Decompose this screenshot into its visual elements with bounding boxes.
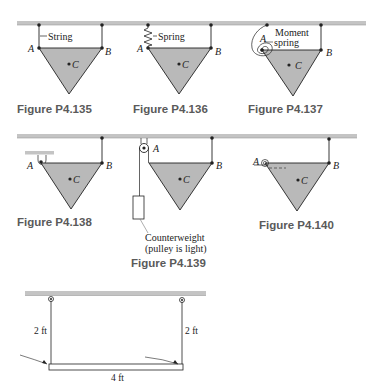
figure-sheet: String A B C Figure P4.135 Spring A B C … bbox=[0, 0, 366, 383]
figure-p4-137: Moment spring A B C Figure P4.137 bbox=[248, 23, 332, 115]
point-b-label: B bbox=[216, 160, 222, 171]
point-b-label: B bbox=[215, 46, 221, 57]
point-a-label: A bbox=[136, 43, 144, 54]
point-a-label: A bbox=[26, 160, 34, 171]
ceiling-bar-top bbox=[17, 21, 366, 25]
triangular-plate bbox=[149, 163, 212, 210]
pulley-note-label: (pulley is light) bbox=[145, 243, 207, 255]
triangular-plate bbox=[262, 50, 321, 96]
point-a-label: A bbox=[259, 33, 267, 44]
right-length-label: 2 ft bbox=[185, 326, 198, 336]
figure-p4-135: String A B C Figure P4.135 bbox=[17, 23, 111, 115]
triangular-plate bbox=[148, 48, 211, 94]
ceiling-bar-middle bbox=[17, 134, 357, 138]
center-of-mass-dot bbox=[178, 177, 181, 180]
width-label: 4 ft bbox=[111, 373, 124, 383]
point-c-label: C bbox=[73, 174, 80, 185]
center-of-mass-dot bbox=[287, 63, 290, 66]
figure-caption: Figure P4.140 bbox=[259, 219, 334, 231]
center-of-mass-dot bbox=[67, 62, 70, 65]
string-label: String bbox=[48, 31, 72, 42]
figure-caption: Figure P4.138 bbox=[17, 216, 92, 228]
figure-caption: Figure P4.137 bbox=[248, 103, 323, 115]
point-c-label: C bbox=[183, 174, 190, 185]
figure-p4-140: A B C Figure P4.140 bbox=[252, 137, 339, 231]
spring-label: Spring bbox=[158, 31, 185, 42]
triangular-plate bbox=[265, 163, 329, 211]
pin-a bbox=[39, 160, 43, 164]
counterweight-label: Counterweight bbox=[145, 232, 205, 243]
center-of-mass-dot bbox=[177, 62, 180, 65]
ceiling-bar-bottom bbox=[25, 291, 206, 296]
center-of-mass-dot bbox=[68, 177, 71, 180]
figure-caption: Figure P4.139 bbox=[131, 257, 206, 269]
point-a-label: A bbox=[252, 156, 260, 167]
point-a-label: A bbox=[27, 43, 35, 54]
left-length-label: 2 ft bbox=[34, 326, 47, 336]
figure-p4-136: Spring A B C Figure P4.136 bbox=[133, 23, 221, 115]
point-c-label: C bbox=[182, 59, 189, 70]
point-b-label: B bbox=[105, 46, 111, 57]
point-b-label: B bbox=[333, 160, 339, 171]
figure-p4-138: A B C Figure P4.138 bbox=[17, 136, 112, 228]
pin-support-bar bbox=[25, 151, 54, 155]
figure-caption: Figure P4.135 bbox=[17, 103, 92, 115]
moment-label-line2: spring bbox=[274, 37, 299, 48]
figure-bottom: 2 ft 2 ft 4 ft bbox=[20, 291, 206, 383]
point-b-label: B bbox=[106, 160, 112, 171]
point-a-label: A bbox=[152, 143, 160, 154]
triangular-plate bbox=[39, 48, 102, 94]
counterweight-block bbox=[133, 196, 144, 219]
point-c-label: C bbox=[301, 175, 308, 186]
figure-caption: Figure P4.136 bbox=[133, 103, 208, 115]
spring-icon bbox=[144, 25, 152, 48]
figure-p4-139: A B C Counterweight (pulley is light) Fi… bbox=[131, 136, 222, 269]
horizontal-plate bbox=[49, 364, 183, 370]
point-b-label: B bbox=[326, 47, 332, 58]
center-of-mass-dot bbox=[296, 178, 299, 181]
point-c-label: C bbox=[72, 59, 79, 70]
triangular-plate bbox=[41, 163, 102, 209]
point-c-label: C bbox=[295, 60, 302, 71]
